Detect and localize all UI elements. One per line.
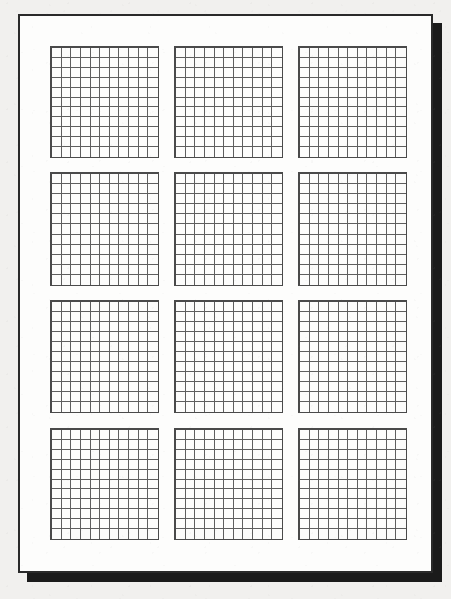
grid-cell (367, 255, 377, 265)
grid-cell (139, 352, 149, 362)
grid-cell (205, 480, 215, 490)
grid-cell (129, 194, 139, 204)
grid-cell (253, 430, 263, 440)
grid-cell (339, 194, 349, 204)
grid-cell (119, 68, 129, 78)
grid-cell (329, 312, 339, 322)
grid-cell (215, 392, 225, 402)
grid-cell (119, 342, 129, 352)
grid-cell (300, 194, 310, 204)
grid-block (50, 46, 159, 158)
grid-cell (91, 332, 101, 342)
grid-cell (176, 372, 186, 382)
grid-cell (377, 78, 387, 88)
grid-cell (234, 450, 244, 460)
grid-cell (253, 342, 263, 352)
grid-cell (358, 224, 368, 234)
grid-cell (329, 214, 339, 224)
grid-cell (139, 48, 149, 58)
grid-cell (272, 117, 282, 127)
grid-cell (329, 127, 339, 137)
grid-cell (52, 392, 62, 402)
grid-cell (62, 194, 72, 204)
grid-cell (339, 214, 349, 224)
grid-cell (129, 499, 139, 509)
grid-cell (310, 362, 320, 372)
grid-cell (396, 137, 406, 147)
grid-cell (71, 224, 81, 234)
grid-cell (129, 529, 139, 539)
grid-cell (205, 265, 215, 275)
grid-cell (310, 58, 320, 68)
grid-cell (100, 519, 110, 529)
grid-cell (52, 499, 62, 509)
grid-cell (110, 529, 120, 539)
grid-cell (52, 78, 62, 88)
grid-cell (339, 147, 349, 157)
grid-cell (387, 302, 397, 312)
grid-cell (272, 147, 282, 157)
grid-cell (358, 372, 368, 382)
grid-cell (91, 499, 101, 509)
grid-cell (148, 184, 158, 194)
grid-cell (377, 529, 387, 539)
grid-cell (186, 342, 196, 352)
grid-cell (367, 245, 377, 255)
grid-cell (52, 137, 62, 147)
grid-cell (263, 392, 273, 402)
grid-cell (234, 68, 244, 78)
grid-cell (329, 147, 339, 157)
grid-cell (100, 68, 110, 78)
grid-cell (71, 342, 81, 352)
grid-cell (367, 174, 377, 184)
grid-cell (358, 68, 368, 78)
grid-cell (396, 302, 406, 312)
grid-cell (205, 352, 215, 362)
grid-cell (119, 372, 129, 382)
grid-cell (243, 362, 253, 372)
grid-cell (186, 489, 196, 499)
grid-cell (319, 194, 329, 204)
grid-cell (91, 440, 101, 450)
grid-cell (339, 224, 349, 234)
grid-cell (186, 184, 196, 194)
grid-cell (348, 382, 358, 392)
grid-cell (367, 48, 377, 58)
grid-cell (110, 519, 120, 529)
grid-cell (148, 275, 158, 285)
grid-cell (195, 392, 205, 402)
grid-cell (176, 137, 186, 147)
grid-cell (62, 372, 72, 382)
grid-cell (81, 174, 91, 184)
grid-cell (119, 224, 129, 234)
grid-cell (195, 147, 205, 157)
grid-cell (62, 392, 72, 402)
grid-cell (387, 88, 397, 98)
grid-cell (148, 509, 158, 519)
grid-cell (186, 302, 196, 312)
grid-cell (358, 529, 368, 539)
grid-cell (348, 499, 358, 509)
grid-cell (62, 147, 72, 157)
grid-cell (176, 255, 186, 265)
grid-cell (339, 470, 349, 480)
grid-cell (387, 489, 397, 499)
grid-cell (329, 265, 339, 275)
grid-cell (52, 48, 62, 58)
grid-cell (119, 214, 129, 224)
grid-cell (81, 204, 91, 214)
grid-cell (387, 440, 397, 450)
grid-cell (91, 450, 101, 460)
grid-cell (186, 48, 196, 58)
grid-cell (310, 519, 320, 529)
grid-cell (339, 127, 349, 137)
grid-cell (310, 107, 320, 117)
grid-cell (234, 98, 244, 108)
grid-cell (215, 470, 225, 480)
grid-cell (310, 460, 320, 470)
grid-cell (119, 402, 129, 412)
grid-cell (205, 174, 215, 184)
grid-cell (377, 174, 387, 184)
grid-cell (110, 98, 120, 108)
grid-cell (234, 58, 244, 68)
